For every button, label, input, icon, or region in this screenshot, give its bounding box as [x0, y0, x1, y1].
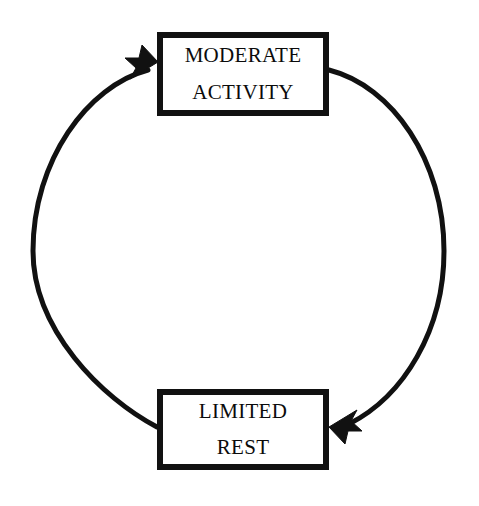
node-moderate-activity: MODERATE ACTIVITY — [157, 32, 329, 116]
right-arrowhead-icon — [329, 410, 362, 444]
node-limited-rest: LIMITED REST — [157, 389, 329, 470]
node-moderate-activity-line2: ACTIVITY — [192, 82, 294, 103]
left-arc-path — [33, 70, 157, 427]
cycle-diagram: MODERATE ACTIVITY LIMITED REST — [0, 0, 479, 506]
node-limited-rest-line1: LIMITED — [199, 401, 287, 422]
node-limited-rest-line2: REST — [217, 437, 270, 458]
right-arc-path — [329, 70, 444, 424]
node-moderate-activity-line1: MODERATE — [185, 45, 302, 66]
